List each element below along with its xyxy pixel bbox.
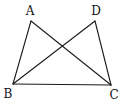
segment-BC <box>13 84 111 85</box>
segment-DB <box>13 21 95 84</box>
segment-AB <box>13 21 31 84</box>
label-B: B <box>4 87 13 100</box>
label-D: D <box>91 4 101 18</box>
labels: A D B C <box>4 4 119 100</box>
label-A: A <box>25 4 35 18</box>
segments <box>13 21 111 85</box>
segment-DC <box>95 21 111 85</box>
geometry-figure: A D B C <box>0 0 121 100</box>
label-C: C <box>109 88 118 100</box>
segment-AC <box>31 21 111 85</box>
